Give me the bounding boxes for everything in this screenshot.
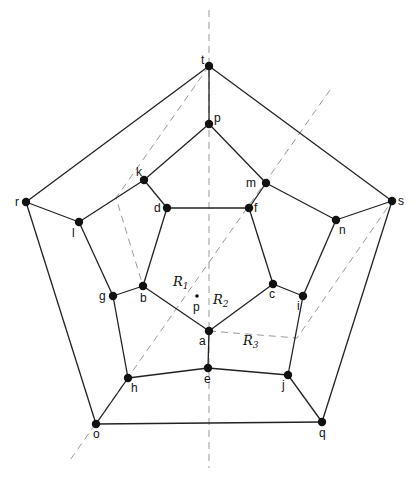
vertex-d: [163, 204, 171, 212]
region-label-R3: R3: [242, 333, 259, 350]
edge-t-s: [209, 66, 392, 201]
vertex-s: [388, 197, 396, 205]
vertex-f: [245, 204, 253, 212]
edge-h-o: [96, 378, 128, 424]
vertex-label-m: m: [246, 176, 256, 190]
vertex-label-e: e: [204, 372, 211, 386]
vertex-q: [318, 418, 326, 426]
vertex-b: [139, 282, 147, 290]
vertex-label-l: l: [72, 226, 75, 240]
vertex-t: [205, 62, 213, 70]
vertex-label-n: n: [339, 223, 346, 237]
edge-d-b: [143, 208, 167, 286]
graph-diagram: tpkmdfrlsngbciaehjoq R1R2R3 p: [0, 0, 420, 479]
vertex-j: [284, 371, 292, 379]
vertex-e: [204, 364, 212, 372]
vertex-l: [75, 218, 83, 226]
vertex-label-j: j: [281, 378, 285, 392]
vertex-label-b: b: [140, 291, 147, 305]
dashed-line-t-to-b-bent: [116, 66, 209, 286]
vertex-label-a: a: [199, 334, 206, 348]
edge-g-b: [113, 286, 143, 296]
vertex-label-c: c: [269, 287, 275, 301]
dashed-construction-lines: [68, 10, 392, 468]
edge-j-q: [288, 375, 322, 422]
edge-f-c: [249, 208, 273, 284]
edge-k-l: [79, 180, 144, 222]
edge-p-m: [209, 124, 266, 183]
vertex-label-t: t: [201, 53, 205, 67]
query-point-label: p: [193, 300, 200, 314]
vertex-label-r: r: [15, 195, 19, 209]
query-point-dot: [195, 294, 199, 298]
vertex-p: [205, 120, 213, 128]
edge-t-r: [26, 66, 209, 202]
edge-p-k: [144, 124, 209, 180]
vertex-r: [22, 198, 30, 206]
edge-n-i: [303, 220, 336, 296]
vertex-label-s: s: [398, 194, 404, 208]
region-label-R2: R2: [212, 292, 229, 309]
edge-r-l: [26, 202, 79, 222]
query-point: p: [193, 294, 200, 314]
vertex-label-d: d: [154, 201, 161, 215]
region-label-R1: R1: [172, 274, 189, 291]
vertex-label-k: k: [136, 165, 143, 179]
vertex-g: [109, 292, 117, 300]
vertex-label-o: o: [93, 427, 100, 441]
edge-s-q: [322, 201, 392, 422]
edge-i-j: [288, 296, 303, 375]
vertex-m: [262, 179, 270, 187]
vertex-label-h: h: [131, 381, 138, 395]
edge-h-e: [128, 368, 208, 378]
region-labels: R1R2R3: [172, 274, 259, 350]
dashed-line-a-to-s-bent: [209, 201, 392, 338]
edge-s-n: [336, 201, 392, 220]
vertex-a: [205, 327, 213, 335]
edge-l-g: [79, 222, 113, 296]
vertex-i: [299, 292, 307, 300]
vertex-label-q: q: [319, 426, 326, 440]
edge-g-h: [113, 296, 128, 378]
vertex-label-f: f: [254, 201, 258, 215]
vertex-label-i: i: [297, 299, 300, 313]
edge-e-j: [208, 368, 288, 375]
edge-c-i: [273, 284, 303, 296]
vertex-label-p: p: [214, 111, 221, 125]
vertex-label-g: g: [99, 289, 106, 303]
edge-m-n: [266, 183, 336, 220]
